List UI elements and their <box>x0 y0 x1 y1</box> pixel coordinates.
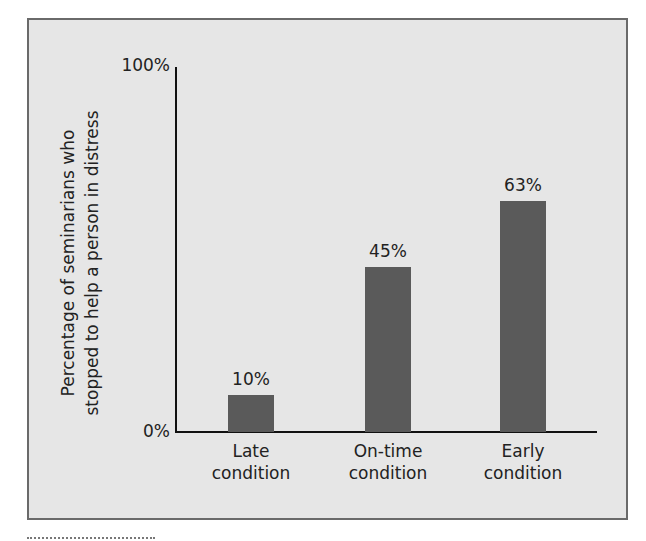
bar-on-time <box>365 267 411 432</box>
bar-late <box>228 395 274 432</box>
category-label-on-time: On-time condition <box>328 440 448 484</box>
category-label-line: condition <box>463 462 583 484</box>
value-label-late: 10% <box>211 369 291 389</box>
category-label-line: condition <box>191 462 311 484</box>
y-axis-label-line-1: Percentage of seminarians who <box>56 83 80 443</box>
value-label-on-time: 45% <box>348 241 428 261</box>
category-label-line: On-time <box>328 440 448 462</box>
y-axis-label: Percentage of seminarians who stopped to… <box>56 83 108 443</box>
bar-early <box>500 201 546 432</box>
y-tick-0: 0% <box>110 421 170 441</box>
value-label-early: 63% <box>483 175 563 195</box>
y-axis-label-line-2: stopped to help a person in distress <box>80 83 104 443</box>
category-label-line: Late <box>191 440 311 462</box>
category-label-early: Early condition <box>463 440 583 484</box>
category-label-line: condition <box>328 462 448 484</box>
y-axis-line <box>175 67 177 433</box>
category-label-line: Early <box>463 440 583 462</box>
category-label-late: Late condition <box>191 440 311 484</box>
dotted-divider <box>27 537 155 539</box>
y-tick-100: 100% <box>110 55 170 75</box>
